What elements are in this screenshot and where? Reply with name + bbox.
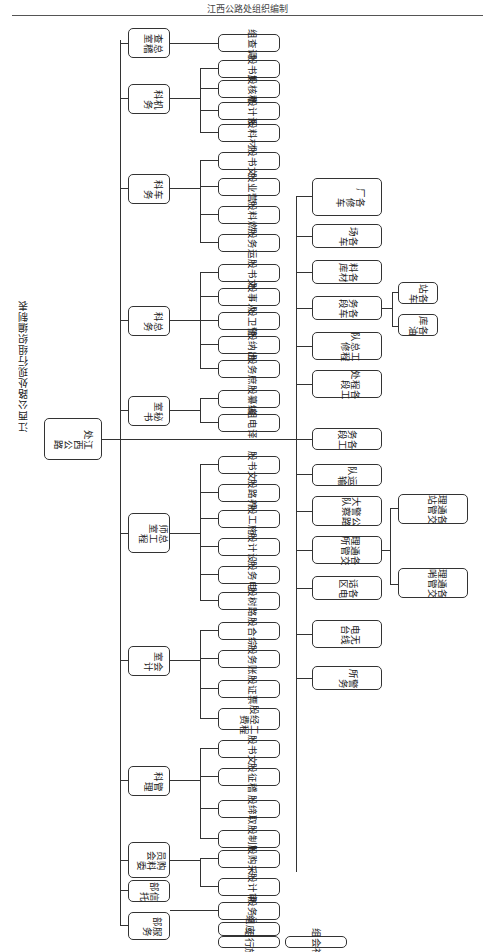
dept-xintuobu: 信托部 <box>128 880 170 902</box>
connector <box>170 660 200 661</box>
connector <box>390 508 398 509</box>
sub-node: 采购股 <box>218 850 280 868</box>
sub-node: 电务股 <box>218 566 280 584</box>
connector <box>296 196 312 197</box>
dept-fuwubu: 服务部 <box>128 912 170 940</box>
connector <box>200 160 218 161</box>
dept-zongwuke: 总务科 <box>128 306 170 336</box>
unit-chewuduan: 各车务段 <box>312 296 382 320</box>
connector <box>170 98 200 99</box>
connector <box>296 384 312 385</box>
dept-zonggongchengshishi: 总工程师室 <box>128 513 170 553</box>
connector <box>170 43 218 44</box>
connector <box>200 422 218 423</box>
connector <box>170 910 218 911</box>
connector <box>200 214 218 215</box>
connector <box>392 292 393 326</box>
sub-node: 审计股 <box>218 878 280 896</box>
connector <box>200 518 218 519</box>
unit-yunshudui: 运输队 <box>312 464 382 486</box>
sub-node: 调查组 <box>218 34 280 52</box>
sub-node: 养路股 <box>218 484 280 502</box>
dept-chewuke: 车务科 <box>128 174 170 204</box>
unit-gongwuduan: 各工务段 <box>312 428 382 450</box>
right-trunk <box>296 196 297 872</box>
connector <box>296 678 312 679</box>
root-node: 江西公路处 <box>44 418 102 460</box>
sub-node: 综合股 <box>218 622 280 640</box>
connector <box>200 688 218 689</box>
sub-node: 施工股 <box>218 510 280 528</box>
connector <box>200 858 218 859</box>
connector <box>200 186 218 187</box>
sub-node: 工程经费股 <box>218 708 280 730</box>
unit-jiaotongguanlisuo: 各交通管理所 <box>312 536 382 564</box>
connector <box>200 160 201 242</box>
connector <box>200 718 218 719</box>
connector <box>200 320 218 321</box>
connector <box>170 410 200 411</box>
chart-title: 江西公路处现行组织编制表 <box>16 300 31 432</box>
connector <box>200 110 218 111</box>
connector <box>390 508 391 584</box>
sub-node: 路树股 <box>218 592 280 610</box>
connector <box>200 600 218 601</box>
sub-node: 燃料股 <box>218 206 280 224</box>
connector <box>170 533 200 534</box>
connector <box>170 860 200 861</box>
unit-gongchengzongxiudui: 工程总修队 <box>312 332 382 360</box>
connector <box>200 630 201 718</box>
connector <box>200 838 218 839</box>
unit-wuxiandiantai: 无线电台 <box>312 620 382 648</box>
connector <box>200 574 218 575</box>
unit-chechang: 各车场 <box>312 224 382 248</box>
connector <box>200 296 218 297</box>
sub-node: 出纳股 <box>218 336 280 354</box>
sub-node: 社会组 <box>285 936 347 948</box>
connector <box>200 808 218 809</box>
sub-node: 取缔股 <box>218 800 280 818</box>
connector <box>382 308 392 309</box>
sub-node: 文书股 <box>218 740 280 758</box>
connector <box>200 88 218 89</box>
sub-node: 文书股 <box>218 152 280 170</box>
connector <box>296 308 312 309</box>
connector <box>200 398 201 422</box>
unit-gongchengduanchu: 各工程段处 <box>312 370 382 398</box>
connector <box>296 272 312 273</box>
connector <box>200 546 218 547</box>
connector <box>296 439 312 440</box>
unit-jiaotongguanlizhan: 各交通管理站 <box>398 494 468 524</box>
unit-chezhan: 各车站 <box>398 282 438 304</box>
connector <box>200 658 218 659</box>
connector <box>170 188 200 189</box>
connector <box>200 748 218 749</box>
connector <box>200 344 218 345</box>
unit-cailiaoku: 各材料库 <box>312 260 382 284</box>
sub-node: 编纂股 <box>218 390 280 408</box>
unit-jiaotongguanlishao: 各交通管理哨 <box>398 568 468 598</box>
connector <box>200 68 218 69</box>
connector <box>200 464 218 465</box>
connector <box>200 464 201 600</box>
connector <box>170 320 200 321</box>
dept-kuaijishi: 会计室 <box>128 646 170 676</box>
connector <box>200 858 201 886</box>
unit-youku: 各油库 <box>398 314 438 336</box>
connector <box>200 776 218 777</box>
connector <box>200 132 218 133</box>
dept-gouliaoweiyuanhui: 购料委员会 <box>128 842 170 878</box>
sub-node: 文书股 <box>218 456 280 474</box>
unit-jingwusuo: 警务所 <box>312 666 382 690</box>
sub-node: 设计股 <box>218 538 280 556</box>
root-connector <box>102 439 302 440</box>
sub-node: 营业股 <box>218 178 280 196</box>
connector <box>200 242 218 243</box>
sub-node: 庶务股 <box>218 360 280 378</box>
connector <box>296 511 312 512</box>
sub-node: 译电组 <box>218 414 280 432</box>
sub-node: 警卫股 <box>218 312 280 330</box>
connector <box>296 236 312 237</box>
connector <box>296 588 312 589</box>
connector <box>296 634 312 635</box>
